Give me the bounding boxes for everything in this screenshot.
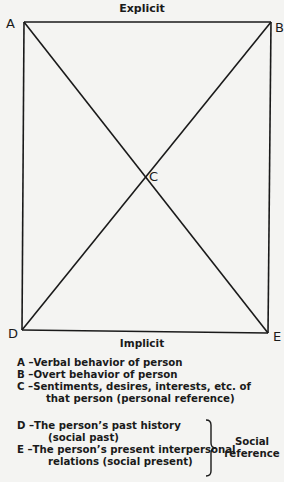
legend-item-c-continued: that person (personal reference) bbox=[17, 393, 251, 405]
corner-label-b: B bbox=[275, 21, 284, 34]
square-diagram bbox=[0, 0, 284, 345]
legend-item-b: B –Overt behavior of person bbox=[17, 369, 251, 381]
legend-item-c: C –Sentiments, desires, interests, etc. … bbox=[17, 381, 251, 393]
legend-item-d: D –The person’s past history bbox=[17, 420, 236, 432]
corner-label-d: D bbox=[8, 327, 18, 340]
legend-item-e: E –The person’s present interpersonal bbox=[17, 444, 236, 456]
legend-social: D –The person’s past history (social pas… bbox=[17, 420, 236, 468]
top-label: Explicit bbox=[112, 3, 172, 15]
right-brace-icon bbox=[204, 419, 218, 477]
bottom-label: Implicit bbox=[112, 337, 172, 349]
edge-right bbox=[268, 22, 271, 333]
edge-left bbox=[22, 22, 24, 330]
legend-personal: A –Verbal behavior of person B –Overt be… bbox=[17, 357, 251, 405]
social-reference-label: Social reference bbox=[222, 436, 282, 460]
legend-item-a: A –Verbal behavior of person bbox=[17, 357, 251, 369]
corner-label-a: A bbox=[6, 17, 15, 30]
legend-item-d-continued: (social past) bbox=[17, 432, 236, 444]
center-label-c: C bbox=[149, 170, 158, 183]
edge-bottom bbox=[22, 330, 268, 333]
corner-label-e: E bbox=[273, 330, 281, 343]
legend-item-e-continued: relations (social present) bbox=[17, 456, 236, 468]
